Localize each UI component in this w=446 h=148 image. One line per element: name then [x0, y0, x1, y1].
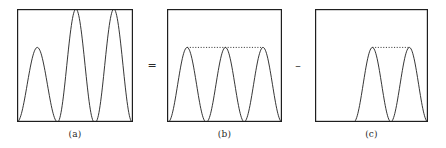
panel-a-caption: (a) — [17, 129, 133, 140]
panel-c-plot — [315, 9, 428, 122]
panel-c-caption: (c) — [315, 129, 428, 140]
panel-a-frame — [18, 10, 133, 122]
operator-minus: – — [288, 60, 308, 71]
panel-a: (a) — [17, 9, 133, 146]
panel-b: (b) — [167, 9, 282, 146]
panel-b-curve — [168, 47, 282, 122]
panel-b-plot — [167, 9, 282, 122]
panel-c-curve — [354, 47, 428, 122]
panel-b-caption: (b) — [167, 129, 282, 140]
panel-a-curve — [17, 9, 132, 122]
operator-equals: = — [142, 60, 162, 71]
panel-a-plot — [17, 9, 133, 122]
figure-root: (a)(b)(c)=– — [0, 0, 446, 148]
panel-c-frame — [316, 10, 428, 122]
panel-c: (c) — [315, 9, 428, 146]
panel-b-frame — [168, 10, 282, 122]
